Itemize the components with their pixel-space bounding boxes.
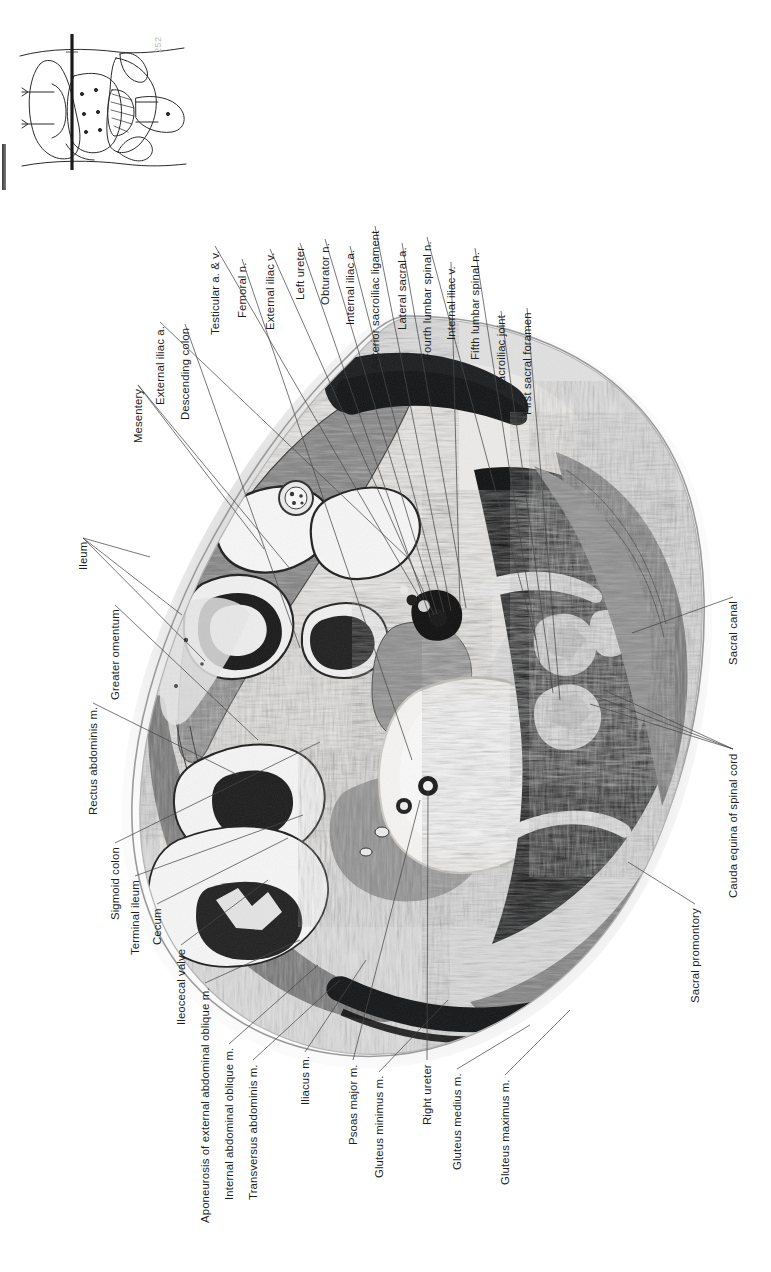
- label-terminal-ileum: Terminal ileum: [130, 880, 141, 955]
- label-psoas-major: Psoas major m.: [348, 1064, 359, 1145]
- label-lateral-sacral-a: Lateral sacral a.: [397, 247, 408, 330]
- label-ileocecal-valve: Ileocecal valve: [176, 949, 187, 1025]
- label-external-iliac-a: External iliac a.: [155, 326, 166, 405]
- label-cauda-equina: Cauda equina of spinal cord: [728, 753, 739, 898]
- label-sacral-canal: Sacral canal: [728, 601, 739, 665]
- label-aponeurosis-eo: Aponeurosis of external abdominal obliqu…: [200, 987, 211, 1223]
- label-transversus-abdominis: Transversus abdominis m.: [248, 1064, 259, 1200]
- label-fourth-lumbar-spinal-n: Fourth lumbar spinal n.: [422, 241, 433, 360]
- label-internal-iliac-a: Internal iliac a.: [345, 250, 356, 325]
- label-first-sacral-foramen: First sacral foramen: [522, 312, 533, 415]
- label-external-iliac-v: External iliac v.: [265, 253, 276, 330]
- label-fifth-lumbar-spinal-n: Fifth lumbar spinal n.: [470, 252, 481, 360]
- label-ileum: Ileum: [78, 542, 89, 570]
- label-gluteus-maximus: Gluteus maximus m.: [500, 1079, 511, 1185]
- label-internal-oblique: Internal abdominal oblique m.: [224, 1048, 235, 1200]
- label-iliacus: Iliacus m.: [300, 1056, 311, 1105]
- label-anterior-si-ligament: Anterior sacroiliac ligament: [370, 230, 381, 370]
- label-mesentery: Mesentery: [133, 389, 144, 443]
- label-right-ureter: Right ureter: [422, 1064, 433, 1125]
- label-sigmoid-colon: Sigmoid colon: [110, 847, 121, 920]
- label-descending-colon: Descending colon: [180, 328, 191, 420]
- label-testicular-av: Testicular a. & v.: [210, 250, 221, 335]
- label-rectus-abdominis: Rectus abdominis m.: [88, 707, 99, 815]
- label-internal-iliac-v: Internal iliac v.: [446, 266, 457, 340]
- label-sacral-promontory: Sacral promontory: [690, 908, 701, 1003]
- label-greater-omentum: Greater omentum: [110, 609, 121, 700]
- plate-page: 252: [0, 0, 771, 1272]
- label-cecum: Cecum: [152, 908, 163, 945]
- label-gluteus-medius: Gluteus medius m.: [452, 1073, 463, 1170]
- label-sacroiliac-joint: Sacroiliac joint: [496, 315, 507, 390]
- label-gluteus-minimus: Gluteus minimus m.: [374, 1076, 385, 1178]
- label-femoral-n: Femoral n.: [237, 263, 248, 318]
- label-left-ureter: Left ureter: [295, 247, 306, 300]
- label-obturator-n: Obturator n.: [320, 243, 331, 305]
